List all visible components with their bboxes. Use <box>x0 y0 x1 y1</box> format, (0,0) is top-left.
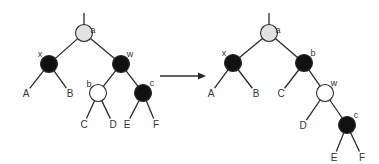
tree-rotation-diagram: axwbcABCDEF axbwcABCDEF <box>0 0 379 164</box>
node-x <box>41 56 58 73</box>
leaf-B: B <box>253 88 260 99</box>
node-label-x: x <box>222 48 227 58</box>
node-label-w: w <box>126 49 134 59</box>
tree-before: axwbcABCDEF <box>23 13 159 130</box>
node-label-x: x <box>38 49 43 59</box>
leaf-C: C <box>277 88 284 99</box>
edge-w-b <box>103 71 115 87</box>
edge-a-x <box>55 39 77 59</box>
leaf-E: E <box>124 119 131 130</box>
edge-c-E <box>336 133 344 152</box>
edge-x-B <box>238 70 252 88</box>
edge-a-w <box>91 38 115 58</box>
edge-b-C <box>86 101 94 119</box>
edge-x-A <box>30 71 44 89</box>
edge-b-C <box>285 70 299 88</box>
node-b <box>90 85 107 102</box>
node-label-b: b <box>310 48 315 58</box>
leaf-A: A <box>23 88 30 99</box>
node-label-a: a <box>275 25 280 35</box>
transform-arrow <box>160 73 206 80</box>
leaf-C: C <box>80 119 87 130</box>
leaf-D: D <box>299 120 306 131</box>
tree-after: axbwcABCDEF <box>208 13 365 163</box>
node-label-a: a <box>90 25 95 35</box>
edge-x-A <box>215 70 228 88</box>
arrow-head-icon <box>198 73 206 80</box>
node-label-b: b <box>86 79 91 89</box>
node-label-w: w <box>330 78 338 88</box>
edge-w-D <box>306 100 320 120</box>
edge-x-B <box>54 71 66 88</box>
leaf-A: A <box>208 88 215 99</box>
edge-c-E <box>130 101 139 119</box>
leaf-D: D <box>109 119 116 130</box>
edge-a-x <box>240 38 263 57</box>
edge-a-b <box>275 39 297 58</box>
edge-c-F <box>351 133 360 152</box>
leaf-F: F <box>153 119 159 130</box>
node-x <box>225 55 242 72</box>
leaf-E: E <box>331 152 338 163</box>
leaf-B: B <box>67 88 74 99</box>
node-label-c: c <box>150 78 155 88</box>
edge-w-c <box>126 71 138 86</box>
leaf-F: F <box>359 152 365 163</box>
node-label-c: c <box>354 110 359 120</box>
edge-w-c <box>330 100 342 118</box>
edge-c-F <box>146 101 153 119</box>
edge-b-w <box>309 70 320 86</box>
edge-b-D <box>102 101 111 119</box>
